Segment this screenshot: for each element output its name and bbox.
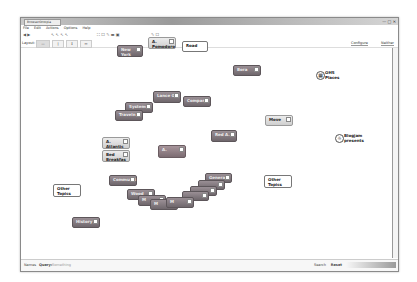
topic-node-new-york[interactable]: New York xyxy=(117,45,143,57)
menu-help[interactable]: Help xyxy=(82,26,90,30)
topic-node-company[interactable]: Company xyxy=(183,96,211,107)
topic-label: Move xyxy=(269,117,281,122)
topic-label: M xyxy=(142,197,146,202)
topic-label: Other Topics xyxy=(57,186,71,196)
status-query-value[interactable]: Something xyxy=(52,263,71,267)
expand-corner-icon[interactable] xyxy=(136,112,141,117)
topic-node-ohs-places[interactable]: ▦OHSPlaces xyxy=(316,71,346,81)
app-window: BrowserOntopia — □ ✕ File Edit Actions O… xyxy=(20,17,399,272)
reset-button[interactable]: Reset xyxy=(331,263,342,267)
topic-node-bora[interactable]: Bora xyxy=(233,65,261,76)
layout-button-4[interactable]: ↔ xyxy=(80,40,92,48)
topic-node-stack-6[interactable]: M xyxy=(166,197,194,208)
topic-node-other-topics-left[interactable]: Other Topics xyxy=(53,184,81,197)
status-names[interactable]: Names xyxy=(24,263,36,267)
topic-node-red-a[interactable]: Red A. xyxy=(211,130,237,142)
topic-node-bed-breakfast[interactable]: Bed Breakfas xyxy=(102,150,130,162)
topic-label: OHSPlaces xyxy=(325,71,339,80)
status-query-label: Query: xyxy=(39,263,52,267)
topic-label: Other Topics xyxy=(268,177,282,187)
topic-node-lance-g[interactable]: Lance G. xyxy=(153,91,181,103)
topic-label-line2: Places xyxy=(325,76,339,81)
expand-corner-icon[interactable] xyxy=(202,193,207,198)
topic-label: Road xyxy=(186,43,197,48)
expand-corner-icon[interactable] xyxy=(225,175,230,180)
window-tab[interactable]: BrowserOntopia xyxy=(24,19,61,26)
expand-corner-icon[interactable] xyxy=(123,139,128,144)
menu-actions[interactable]: Actions xyxy=(46,26,59,30)
vertical-scrollbar[interactable] xyxy=(392,48,398,258)
topic-node-a[interactable]: A. xyxy=(158,145,186,158)
topic-label: Blogjampresents xyxy=(344,134,364,143)
menu-options[interactable]: Options xyxy=(64,26,78,30)
topic-label: A. xyxy=(162,147,167,152)
neighbor-button[interactable]: Neither xyxy=(381,41,394,46)
topic-label-line2: presents xyxy=(344,139,364,144)
view-tools[interactable]: ⛶ ☐ ✎ ▬ ▣ xyxy=(97,32,120,37)
topic-node-road[interactable]: Road xyxy=(182,41,208,52)
menu-file[interactable]: File xyxy=(23,26,29,30)
topic-node-traveln[interactable]: Traveln xyxy=(115,110,143,121)
expand-corner-icon[interactable] xyxy=(210,188,215,193)
layout-button-2[interactable]: | xyxy=(52,40,64,48)
layout-button-3[interactable]: ↕ xyxy=(66,40,78,48)
expand-corner-icon[interactable] xyxy=(169,39,174,44)
topic-node-move[interactable]: Move xyxy=(265,115,293,126)
expand-corner-icon[interactable] xyxy=(130,177,135,182)
search-button[interactable]: Search xyxy=(314,263,326,267)
expand-corner-icon[interactable] xyxy=(218,182,223,187)
menu-bar: File Edit Actions Options Help xyxy=(23,26,94,31)
toolbar: ◀ ▶ ↖ ↖ ↖ ↖ ⛶ ☐ ✎ ▬ ▣ ✎ ☐ xyxy=(23,32,396,38)
expand-corner-icon[interactable] xyxy=(136,47,141,52)
topic-node-a-atlantic[interactable]: A. Atlantic xyxy=(102,137,130,149)
topic-label: Traveln xyxy=(119,112,136,117)
progress-indicator xyxy=(346,262,396,268)
expand-corner-icon[interactable] xyxy=(254,67,259,72)
topic-label: A. Atlantic xyxy=(106,139,124,149)
menu-edit[interactable]: Edit xyxy=(34,26,41,30)
topic-label: Bora xyxy=(237,67,247,72)
expand-corner-icon[interactable] xyxy=(93,219,98,224)
expand-corner-icon[interactable] xyxy=(230,132,235,137)
expand-corner-icon[interactable] xyxy=(187,199,192,204)
layout-label: Layout: xyxy=(22,41,35,45)
topic-label: New York xyxy=(121,47,131,57)
topic-node-history[interactable]: History xyxy=(72,217,100,228)
pointer-tools[interactable]: ↖ ↖ ↖ ↖ xyxy=(51,32,68,37)
topic-node-a-pomodoro[interactable]: A. Pomodoro xyxy=(148,37,176,49)
layout-bar: Layout: — | ↕ ↔ Configure Neither xyxy=(21,40,398,48)
expand-corner-icon[interactable] xyxy=(204,98,209,103)
nav-buttons[interactable]: ◀ ▶ xyxy=(23,32,30,37)
expand-corner-icon[interactable] xyxy=(179,147,184,152)
expand-corner-icon[interactable] xyxy=(146,104,151,109)
building-icon: ▦ xyxy=(316,71,325,80)
configure-button[interactable]: Configure xyxy=(351,41,368,46)
expand-corner-icon[interactable] xyxy=(123,152,128,157)
expand-corner-icon[interactable] xyxy=(174,93,179,98)
window-controls[interactable]: — □ ✕ xyxy=(382,19,396,24)
sun-icon: ☼ xyxy=(335,134,344,143)
topic-label: M xyxy=(170,199,174,204)
topic-node-communit[interactable]: Communit xyxy=(109,175,137,186)
title-bar: BrowserOntopia — □ ✕ xyxy=(21,18,398,25)
topic-label: M xyxy=(154,201,158,206)
topic-node-other-topics-right[interactable]: Other Topics xyxy=(264,175,292,188)
topic-node-blogjam[interactable]: ☼Blogjampresents xyxy=(335,134,365,144)
topic-label: History xyxy=(76,219,92,224)
expand-corner-icon[interactable] xyxy=(286,117,291,122)
status-bar: Names Query: Something Search Reset xyxy=(21,259,398,271)
topic-label: Red A. xyxy=(215,132,230,137)
layout-button-1[interactable]: — xyxy=(36,40,50,48)
